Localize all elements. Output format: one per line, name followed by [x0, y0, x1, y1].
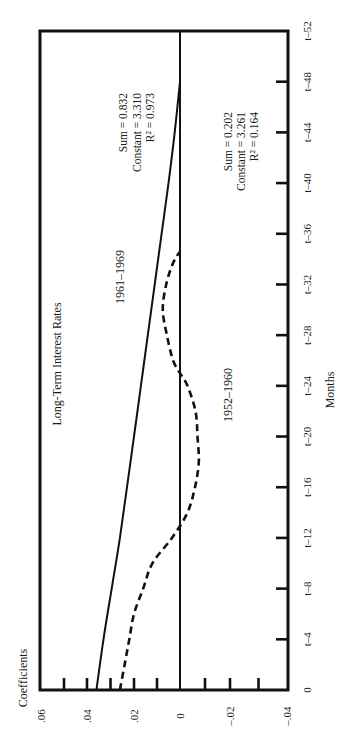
distributed-lag-chart: .06.04.020–.02–.04 0t–4t–8t–12t–16t–20t–…	[0, 0, 348, 751]
x-axis-title: Months	[323, 371, 337, 408]
chart-title: Long-Term Interest Rates	[50, 302, 64, 425]
month-tick-label: t–8	[301, 581, 313, 596]
month-tick-label: t–36	[301, 223, 313, 243]
month-tick-label: t–24	[301, 376, 313, 396]
series-label-1961-1969: 1961–1969	[113, 250, 127, 304]
month-tick-label: t–4	[301, 632, 313, 647]
coefficient-tick-label: .04	[81, 709, 93, 723]
stat-r-squared: R² = 0.973	[144, 93, 156, 142]
month-tick-label: t–40	[301, 173, 313, 193]
stat-r-squared: R² = 0.164	[248, 112, 260, 161]
coefficient-tick-label: –.02	[224, 706, 236, 726]
month-tick-label: t–12	[301, 528, 313, 548]
stat-constant: Constant = 3.261	[235, 112, 247, 191]
month-tick-label: t–48	[301, 71, 313, 91]
month-tick-label: t–44	[301, 122, 313, 142]
month-tick-label: t–16	[301, 477, 313, 497]
month-tick-label: t–28	[301, 325, 313, 345]
coefficient-tick-label: 0	[174, 713, 186, 719]
month-tick-label: t–20	[301, 426, 313, 446]
coefficient-tick-label: –.04	[281, 706, 293, 727]
stat-sum: Sum = 0.832	[117, 93, 129, 152]
stat-constant: Constant = 3.310	[131, 93, 143, 172]
y-axis-title: Coefficients	[16, 648, 30, 707]
series-label-1952-1960: 1952–1960	[221, 368, 235, 422]
month-tick-label: t–32	[301, 275, 313, 295]
coefficient-tick-label: .02	[128, 709, 140, 723]
coefficient-tick-label: .06	[35, 709, 47, 723]
stat-sum: Sum = 0.202	[222, 112, 234, 171]
month-tick-label: 0	[301, 687, 313, 693]
month-tick-label: t–52	[301, 21, 313, 41]
